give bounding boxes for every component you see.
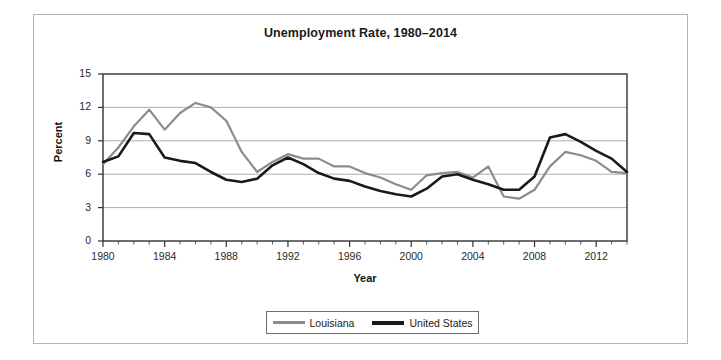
series-line-louisiana xyxy=(103,103,627,199)
y-tick-label: 9 xyxy=(63,134,91,146)
chart-figure: Unemployment Rate, 1980–2014 Percent Yea… xyxy=(0,0,721,360)
legend-label: United States xyxy=(409,317,472,329)
legend-swatch-icon xyxy=(273,321,305,324)
x-tick-label: 2000 xyxy=(389,250,433,262)
y-tick-label: 15 xyxy=(63,67,91,79)
legend-entry: Louisiana xyxy=(273,317,355,329)
x-tick-label: 2008 xyxy=(513,250,557,262)
chart-legend: LouisianaUnited States xyxy=(266,311,479,334)
data-series-group xyxy=(103,103,627,199)
legend-label: Louisiana xyxy=(310,317,355,329)
x-tick-label: 2012 xyxy=(574,250,618,262)
y-tick-label: 6 xyxy=(63,167,91,179)
y-tick-label: 12 xyxy=(63,100,91,112)
x-tick-label: 1984 xyxy=(143,250,187,262)
legend-entry: United States xyxy=(372,317,472,329)
series-line-united-states xyxy=(103,133,627,196)
x-axis-label: Year xyxy=(100,272,630,284)
plot-svg xyxy=(0,0,721,360)
gridlines xyxy=(103,107,627,207)
x-tick-label: 1980 xyxy=(81,250,125,262)
y-tick-label: 0 xyxy=(63,234,91,246)
plot-frame xyxy=(103,74,627,241)
y-tick-label: 3 xyxy=(63,201,91,213)
legend-swatch-icon xyxy=(372,321,404,325)
x-tick-label: 1988 xyxy=(204,250,248,262)
plot-area: Percent Year 03691215 198019841988199219… xyxy=(0,0,721,360)
x-tick-label: 1996 xyxy=(328,250,372,262)
x-tick-label: 2004 xyxy=(451,250,495,262)
x-tick-label: 1992 xyxy=(266,250,310,262)
